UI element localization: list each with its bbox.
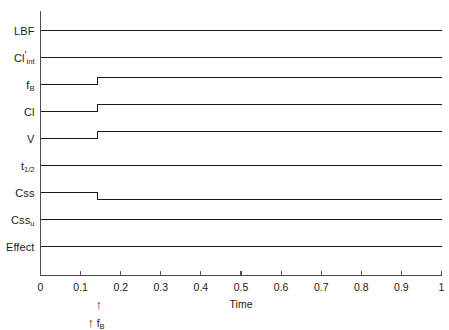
- parameter-label-effect: Effect: [6, 241, 35, 252]
- x-tick-label-1: 0.1: [73, 281, 88, 293]
- x-tick-label-4: 0.4: [194, 281, 209, 293]
- x-tick-label-0: 0: [38, 281, 44, 293]
- plot-area: [0, 0, 449, 330]
- parameter-label-cl: Cl: [24, 106, 35, 117]
- x-tick-label-10: 1: [439, 281, 445, 293]
- x-tick-label-5: 0.5: [234, 281, 249, 293]
- traces-group: [41, 31, 442, 247]
- x-axis-title: Time: [230, 298, 253, 310]
- parameter-label-lbf: LBF: [14, 25, 34, 36]
- trace-fb: [41, 78, 442, 85]
- parameter-label-css: Css: [15, 187, 34, 198]
- perturbation-arrow-upper: ↑: [95, 298, 102, 311]
- parameter-label-clint: Cl′int: [14, 52, 35, 63]
- x-tick-label-2: 0.2: [113, 281, 128, 293]
- chart-figure: LBFCl′intfBClVt1/2CssCssuEffect 00.10.20…: [0, 0, 449, 330]
- x-tick-label-8: 0.8: [354, 281, 369, 293]
- perturbation-arrow-label: fB: [97, 318, 105, 329]
- trace-cl: [41, 105, 442, 112]
- parameter-label-t12: t1/2: [21, 160, 35, 171]
- axis-group: [41, 11, 442, 276]
- parameter-label-v: V: [27, 133, 34, 144]
- perturbation-arrow-lower: ↑: [87, 316, 94, 329]
- trace-v: [41, 132, 442, 139]
- parameter-label-fb: fB: [26, 79, 34, 90]
- trace-css: [41, 193, 442, 200]
- x-tick-label-7: 0.7: [314, 281, 329, 293]
- x-tick-label-6: 0.6: [274, 281, 289, 293]
- x-tick-label-3: 0.3: [153, 281, 168, 293]
- x-tick-label-9: 0.9: [394, 281, 409, 293]
- parameter-label-cssu: Cssu: [11, 214, 34, 225]
